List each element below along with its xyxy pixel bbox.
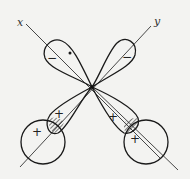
x-axis-label: x [17, 16, 24, 29]
diagram-canvas: x y − − + + + + [0, 0, 190, 179]
sign-lobe-lower-right: + [108, 110, 118, 124]
center-point [90, 85, 94, 89]
sign-lobe-upper-right: − [122, 50, 132, 64]
sign-lobe-lower-left: + [54, 107, 64, 121]
y-axis-label: y [153, 15, 161, 28]
dot-marker [69, 52, 72, 55]
sign-orbital-lower-left: + [32, 125, 42, 139]
sign-lobe-upper-left: − [47, 51, 57, 65]
sign-orbital-lower-right: + [130, 132, 140, 146]
orbital-overlap-diagram: x y − − + + + + [0, 0, 190, 179]
